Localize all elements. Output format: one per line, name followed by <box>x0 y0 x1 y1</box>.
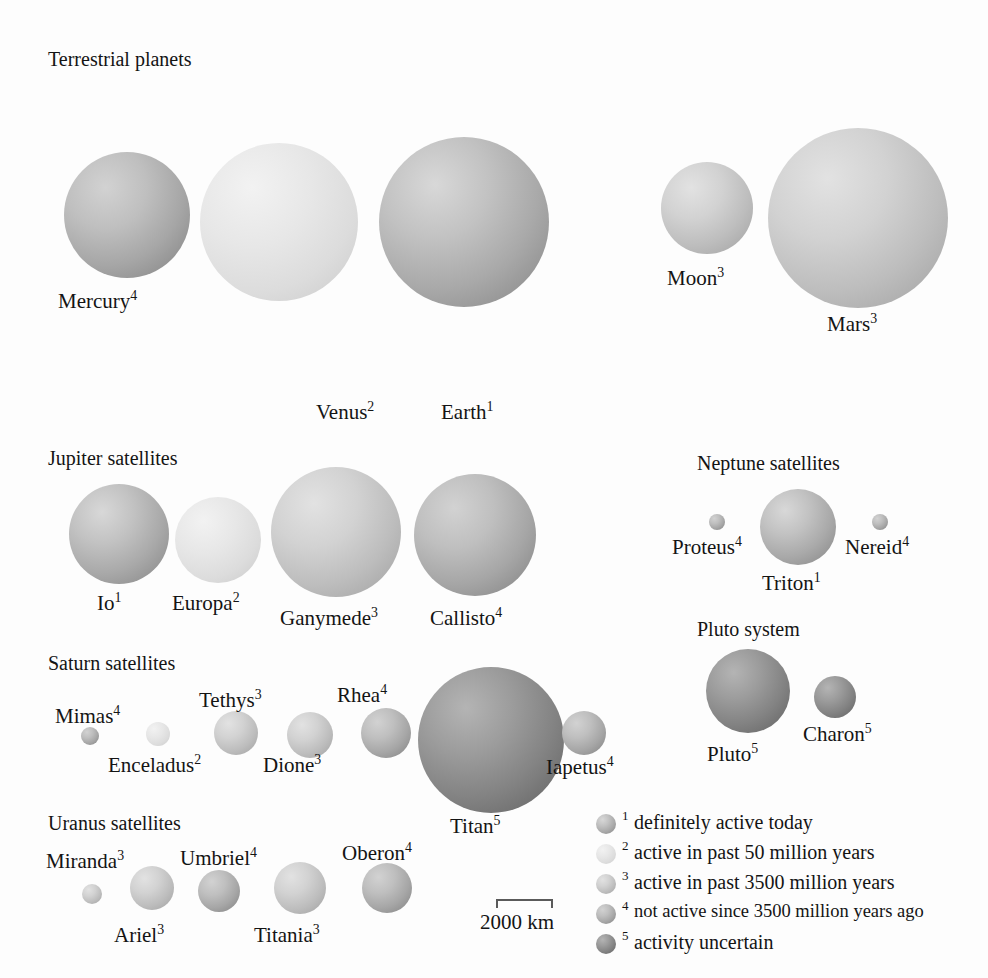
body-name-text: Mimas <box>55 704 113 728</box>
body-name-text: Umbriel <box>180 846 250 870</box>
sphere-pluto <box>706 649 790 733</box>
body-label-miranda: Miranda3 <box>46 848 124 874</box>
body-name-text: Oberon <box>342 841 405 865</box>
legend-sphere-1 <box>596 814 616 834</box>
body-label-iapetus: Iapetus4 <box>546 754 614 780</box>
body-label-oberon: Oberon4 <box>342 840 412 866</box>
sphere-oberon <box>362 863 412 913</box>
body-activity-rank: 2 <box>233 590 240 605</box>
body-activity-rank: 4 <box>607 754 614 769</box>
body-activity-rank: 4 <box>495 605 502 620</box>
sphere-proteus <box>709 514 725 530</box>
legend-text-4: not active since 3500 million years ago <box>634 901 924 922</box>
sphere-ariel <box>130 866 174 910</box>
body-name-text: Nereid <box>845 535 902 559</box>
legend-sphere-3 <box>596 874 616 894</box>
legend-text-2: active in past 50 million years <box>634 841 875 864</box>
body-label-nereid: Nereid4 <box>845 534 909 560</box>
body-activity-rank: 3 <box>371 605 378 620</box>
legend-sphere-2 <box>596 844 616 864</box>
scale-bar-tick-right <box>551 899 553 908</box>
body-activity-rank: 5 <box>494 813 501 828</box>
body-activity-rank: 1 <box>814 570 821 585</box>
body-name-text: Mars <box>827 312 870 336</box>
legend-rank-2: 2 <box>622 838 629 854</box>
body-label-tethys: Tethys3 <box>199 687 262 713</box>
body-name-text: Charon <box>803 722 865 746</box>
body-name-text: Ganymede <box>280 606 371 630</box>
body-name-text: Pluto <box>707 742 751 766</box>
body-name-text: Moon <box>667 266 717 290</box>
sphere-mars <box>768 128 948 308</box>
legend-rank-4: 4 <box>622 898 629 914</box>
body-label-charon: Charon5 <box>803 721 872 747</box>
body-activity-rank: 4 <box>113 703 120 718</box>
body-name-text: Io <box>97 591 115 615</box>
sphere-nereid <box>872 514 888 530</box>
body-activity-rank: 4 <box>735 534 742 549</box>
sphere-charon <box>814 676 856 718</box>
body-activity-rank: 4 <box>130 288 137 303</box>
body-label-europa: Europa2 <box>172 590 240 616</box>
legend-rank-1: 1 <box>622 808 629 824</box>
group-title-uranus: Uranus satellites <box>48 812 181 835</box>
sphere-io <box>69 484 169 584</box>
body-activity-rank: 3 <box>117 848 124 863</box>
body-activity-rank: 3 <box>313 922 320 937</box>
body-activity-rank: 2 <box>367 399 374 414</box>
body-activity-rank: 3 <box>717 265 724 280</box>
sphere-earth <box>379 137 549 307</box>
group-title-neptune: Neptune satellites <box>697 452 840 475</box>
body-activity-rank: 1 <box>115 590 122 605</box>
sphere-tethys <box>214 711 258 755</box>
sphere-miranda <box>82 884 102 904</box>
group-title-jupiter: Jupiter satellites <box>48 447 177 470</box>
sphere-iapetus <box>562 711 606 755</box>
legend-rank-3: 3 <box>622 868 629 884</box>
body-name-text: Proteus <box>672 535 735 559</box>
body-name-text: Titania <box>254 923 313 947</box>
body-activity-rank: 5 <box>751 741 758 756</box>
body-label-triton: Triton1 <box>762 570 821 596</box>
body-label-titan: Titan5 <box>450 813 501 839</box>
legend-rank-5: 5 <box>622 928 629 944</box>
body-label-io: Io1 <box>97 590 121 616</box>
legend-text-3: active in past 3500 million years <box>634 871 895 894</box>
body-name-text: Callisto <box>430 606 495 630</box>
scale-bar-label: 2000 km <box>480 910 554 935</box>
sphere-callisto <box>414 474 536 596</box>
body-label-umbriel: Umbriel4 <box>180 845 257 871</box>
body-name-text: Europa <box>172 591 233 615</box>
sphere-moon <box>661 162 753 254</box>
body-label-titania: Titania3 <box>254 922 320 948</box>
body-label-rhea: Rhea4 <box>337 682 387 708</box>
sphere-mimas <box>81 727 99 745</box>
sphere-mercury <box>64 152 190 278</box>
body-label-mars: Mars3 <box>827 311 877 337</box>
sphere-umbriel <box>198 870 240 912</box>
body-name-text: Earth <box>441 400 486 424</box>
scale-bar-line <box>496 899 553 901</box>
body-name-text: Rhea <box>337 683 380 707</box>
body-activity-rank: 5 <box>865 721 872 736</box>
body-label-ariel: Ariel3 <box>114 922 164 948</box>
body-name-text: Triton <box>762 571 814 595</box>
sphere-titan <box>418 667 564 813</box>
body-activity-rank: 4 <box>405 840 412 855</box>
legend-sphere-4 <box>596 904 616 924</box>
body-activity-rank: 4 <box>902 534 909 549</box>
body-label-dione: Dione3 <box>263 752 321 778</box>
body-label-proteus: Proteus4 <box>672 534 742 560</box>
sphere-venus <box>200 143 358 301</box>
scale-bar-tick-left <box>496 899 498 908</box>
body-activity-rank: 2 <box>194 752 201 767</box>
body-label-callisto: Callisto4 <box>430 605 502 631</box>
group-title-saturn: Saturn satellites <box>48 652 175 675</box>
sphere-titania <box>274 862 326 914</box>
body-label-earth: Earth1 <box>441 399 493 425</box>
body-activity-rank: 1 <box>486 399 493 414</box>
body-label-pluto: Pluto5 <box>707 741 758 767</box>
body-name-text: Titan <box>450 814 494 838</box>
body-name-text: Iapetus <box>546 755 607 779</box>
legend-sphere-5 <box>596 934 616 954</box>
